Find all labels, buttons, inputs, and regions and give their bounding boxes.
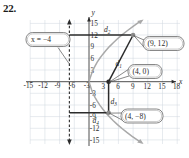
callout-label-directrix: x = −4 [31,35,51,44]
callout-directrix: x = −4 [26,33,70,64]
x-tick-9: 9 [131,83,135,91]
x-tick--15: -15 [24,82,34,90]
parabola-graph: -15 -12 -9 -6 -3 3 6 9 12 15 18 15 12 9 … [0,0,189,158]
point-4--8 [106,110,111,115]
x-tick-15: 15 [158,83,166,91]
x-tick--6: -6 [69,82,75,90]
x-tick--12: -12 [38,82,48,90]
figure-container: 22. [0,0,189,158]
callout-point-4--8: (4, −8) [109,109,163,123]
label-d3: d3 [111,97,118,107]
x-tick--9: -9 [54,82,60,90]
label-d2: d2 [104,25,111,35]
y-tick--15: -15 [90,137,100,145]
callout-label-9-12: (9, 12) [148,39,169,48]
x-tick-labels: -15 -12 -9 -6 -3 3 6 9 12 15 18 [24,82,181,91]
y-tick--6: -6 [90,102,96,110]
directrix-arrow-up [67,19,72,25]
directrix-arrow-down [67,140,72,146]
y-tick-15: 15 [91,20,99,28]
x-axis-label: x [178,77,183,86]
callout-point-9-12: (9, 12) [134,36,184,51]
y-tick-6: 6 [91,55,95,63]
label-d4: d4 [93,116,100,126]
x-tick-12: 12 [144,83,152,91]
y-axis-label: y [91,8,96,17]
leader-9-12 [134,36,144,47]
callout-label-4--8: (4, −8) [125,112,146,121]
x-tick-6: 6 [116,83,120,91]
y-tick-9: 9 [91,43,95,51]
x-tick-3: 3 [102,83,106,91]
y-tick--12: -12 [90,125,100,133]
label-d1: d1 [116,59,123,69]
callout-label-4-0: (4, 0) [133,67,150,76]
